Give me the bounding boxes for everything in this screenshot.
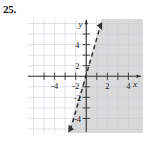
y-axis-label: y <box>78 19 83 29</box>
y-tick-label--4: -4 <box>74 114 82 124</box>
exercise-number: 25. <box>3 3 16 15</box>
x-tick-label-2: 2 <box>105 81 109 91</box>
graph-svg: -4 -2 2 4 4 2 -2 -4 x y <box>28 19 143 133</box>
coordinate-plane-figure: -4 -2 2 4 4 2 -2 -4 x y <box>28 19 143 133</box>
exercise-figure-container: 25. <box>0 0 157 143</box>
y-tick-label-2: 2 <box>75 61 79 71</box>
x-axis-label: x <box>132 79 137 89</box>
x-tick-label-4: 4 <box>126 81 131 91</box>
x-tick-label--4: -4 <box>51 81 59 91</box>
y-tick-label--2: -2 <box>74 93 81 103</box>
x-tick-label--2: -2 <box>72 81 79 91</box>
